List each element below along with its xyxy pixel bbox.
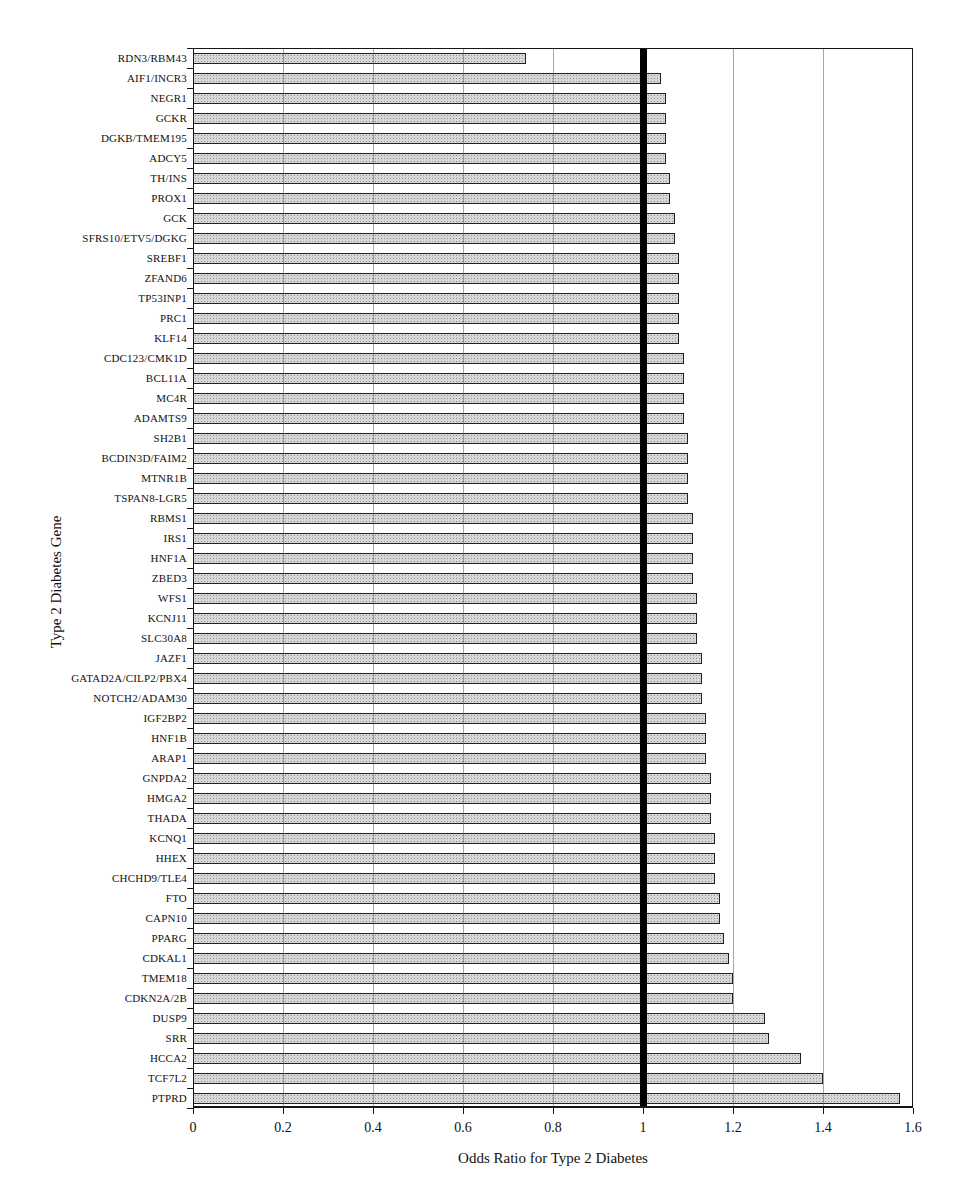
y-axis-tick [187, 328, 193, 329]
y-axis-tick [187, 188, 193, 189]
y-axis-tick [187, 528, 193, 529]
category-label: KCNJ11 [2, 612, 187, 624]
category-label: JAZF1 [2, 652, 187, 664]
category-label: DUSP9 [2, 1012, 187, 1024]
bar [193, 153, 666, 164]
bar [193, 793, 711, 804]
category-label: IRS1 [2, 532, 187, 544]
category-label: HMGA2 [2, 792, 187, 804]
category-label: MTNR1B [2, 472, 187, 484]
y-axis-tick [187, 908, 193, 909]
category-label: GCK [2, 212, 187, 224]
y-axis-tick [187, 88, 193, 89]
bar [193, 673, 702, 684]
category-label: AIF1/INCR3 [2, 72, 187, 84]
x-tick-label: 1.6 [883, 1120, 943, 1136]
y-axis-tick [187, 768, 193, 769]
category-label: TP53INP1 [2, 292, 187, 304]
y-axis-tick [187, 308, 193, 309]
y-axis-tick [187, 808, 193, 809]
category-label: IGF2BP2 [2, 712, 187, 724]
x-tick-label: 1.4 [793, 1120, 853, 1136]
gridline [823, 48, 824, 1108]
category-label: ADAMTS9 [2, 412, 187, 424]
x-tick-label: 0.8 [523, 1120, 583, 1136]
x-axis-tick [643, 1108, 644, 1114]
y-axis-tick [187, 588, 193, 589]
gridline [733, 48, 734, 1108]
y-axis-tick [187, 448, 193, 449]
category-label: CAPN10 [2, 912, 187, 924]
bar [193, 1073, 823, 1084]
y-axis-tick [187, 468, 193, 469]
y-axis-tick [187, 688, 193, 689]
category-label: NOTCH2/ADAM30 [2, 692, 187, 704]
y-axis-tick [187, 148, 193, 149]
bar [193, 273, 679, 284]
category-label: ADCY5 [2, 152, 187, 164]
category-label: SREBF1 [2, 252, 187, 264]
bar [193, 233, 675, 244]
y-axis-tick [187, 128, 193, 129]
category-label: SH2B1 [2, 432, 187, 444]
y-axis-tick [187, 668, 193, 669]
bar [193, 833, 715, 844]
y-axis-tick [187, 1008, 193, 1009]
category-label: BCL11A [2, 372, 187, 384]
bar [193, 293, 679, 304]
category-label: KCNQ1 [2, 832, 187, 844]
y-axis-tick [187, 1088, 193, 1089]
category-label: TH/INS [2, 172, 187, 184]
y-axis-tick [187, 868, 193, 869]
plot-area: 00.20.40.60.811.21.41.6RDN3/RBM43AIF1/IN… [193, 48, 913, 1108]
bar [193, 113, 666, 124]
bar [193, 713, 706, 724]
category-label: PRC1 [2, 312, 187, 324]
bar [193, 553, 693, 564]
y-axis-tick [187, 1048, 193, 1049]
category-label: BCDIN3D/FAIM2 [2, 452, 187, 464]
bar [193, 393, 684, 404]
y-axis-tick [187, 268, 193, 269]
x-tick-label: 0.4 [343, 1120, 403, 1136]
reference-line-or-1 [640, 48, 647, 1108]
x-axis-tick [823, 1108, 824, 1114]
bar [193, 513, 693, 524]
category-label: PROX1 [2, 192, 187, 204]
y-axis-tick [187, 388, 193, 389]
y-axis-tick [187, 548, 193, 549]
bar [193, 853, 715, 864]
gridline [373, 48, 374, 1108]
bar [193, 693, 702, 704]
bar [193, 173, 670, 184]
category-label: TMEM18 [2, 972, 187, 984]
bar [193, 733, 706, 744]
category-label: FTO [2, 892, 187, 904]
x-axis-tick [283, 1108, 284, 1114]
y-axis-tick [187, 948, 193, 949]
y-axis-tick [187, 728, 193, 729]
category-label: CHCHD9/TLE4 [2, 872, 187, 884]
y-axis-tick [187, 288, 193, 289]
bar [193, 953, 729, 964]
bar [193, 813, 711, 824]
y-axis-tick [187, 48, 193, 49]
x-axis-tick [913, 1108, 914, 1114]
y-axis-tick [187, 228, 193, 229]
y-axis-tick [187, 848, 193, 849]
x-axis-title: Odds Ratio for Type 2 Diabetes [193, 1150, 913, 1167]
bar [193, 1033, 769, 1044]
category-label: TCF7L2 [2, 1072, 187, 1084]
y-axis-tick [187, 608, 193, 609]
bar [193, 573, 693, 584]
bar [193, 653, 702, 664]
gridline [553, 48, 554, 1108]
category-label: HHEX [2, 852, 187, 864]
y-axis-tick [187, 508, 193, 509]
x-axis-tick [463, 1108, 464, 1114]
bar [193, 453, 688, 464]
x-axis-tick [553, 1108, 554, 1114]
x-tick-label: 0.2 [253, 1120, 313, 1136]
category-label: ZFAND6 [2, 272, 187, 284]
bar [193, 73, 661, 84]
